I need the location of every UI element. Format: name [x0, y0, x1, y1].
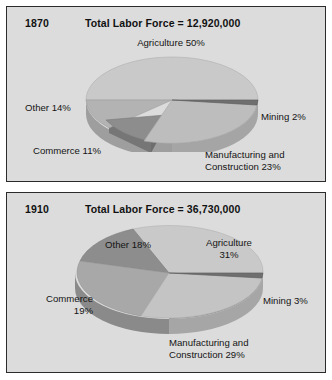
pie-label-agriculture-1910: Agriculture 31% [177, 237, 281, 261]
pie-label-commerce-1870: Commerce 11% [33, 145, 143, 157]
pie-svg-1870 [73, 37, 263, 152]
chart-panel-1870: 1870 Total Labor Force = 12,920,000 [6, 6, 326, 182]
pie-label-manufacturing-1870: Manufacturing and Construction 23% [205, 149, 326, 173]
pie-label-agriculture-1870: Agriculture 50% [111, 37, 231, 49]
pie-label-commerce-1910: Commerce 19% [13, 293, 93, 317]
slice-agriculture-1870 [86, 57, 258, 100]
pie-label-other-1910: Other 18% [85, 239, 171, 251]
pie-label-mining-1910: Mining 3% [263, 295, 326, 307]
pie-label-other-1870: Other 14% [25, 102, 115, 114]
figure-root: 1870 Total Labor Force = 12,920,000 [0, 0, 332, 380]
chart-panel-1910: 1910 Total Labor Force = 36,730,000 [6, 192, 326, 373]
pie-label-manufacturing-1910: Manufacturing and Construction 29% [169, 337, 299, 361]
pie-label-mining-1870: Mining 2% [261, 111, 326, 123]
